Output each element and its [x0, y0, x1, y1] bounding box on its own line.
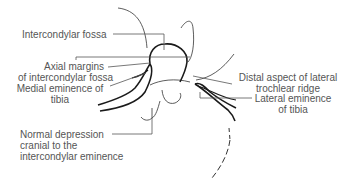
- label-text: Distal aspect of lateral: [232, 72, 344, 83]
- label-text: Axial margins: [18, 61, 104, 72]
- label-text: intercondylar eminence: [20, 151, 123, 162]
- label-text: tibia: [12, 94, 108, 105]
- label-medial-eminence: Medial eminence of tibia: [12, 83, 108, 105]
- label-text: of tibia: [253, 104, 333, 115]
- label-normal-depression: Normal depression cranial to the interco…: [20, 129, 123, 162]
- thin-outlines: [118, 8, 234, 178]
- label-text: Lateral eminence: [253, 93, 333, 104]
- label-lateral-eminence: Lateral eminence of tibia: [253, 93, 333, 115]
- label-intercondylar-fossa: Intercondylar fossa: [22, 29, 107, 40]
- label-text: of intercondylar fossa: [18, 72, 104, 83]
- label-axial-margins: Axial margins of intercondylar fossa: [18, 61, 104, 83]
- label-text: cranial to the: [20, 140, 123, 151]
- label-text: Intercondylar fossa: [22, 29, 107, 40]
- label-text: Normal depression: [20, 129, 123, 140]
- label-distal-aspect-lateral-trochlear-ridge: Distal aspect of lateral trochlear ridge: [232, 72, 344, 94]
- stifle-diagram: Intercondylar fossa Axial margins of int…: [0, 0, 350, 185]
- label-text: Medial eminence of: [12, 83, 108, 94]
